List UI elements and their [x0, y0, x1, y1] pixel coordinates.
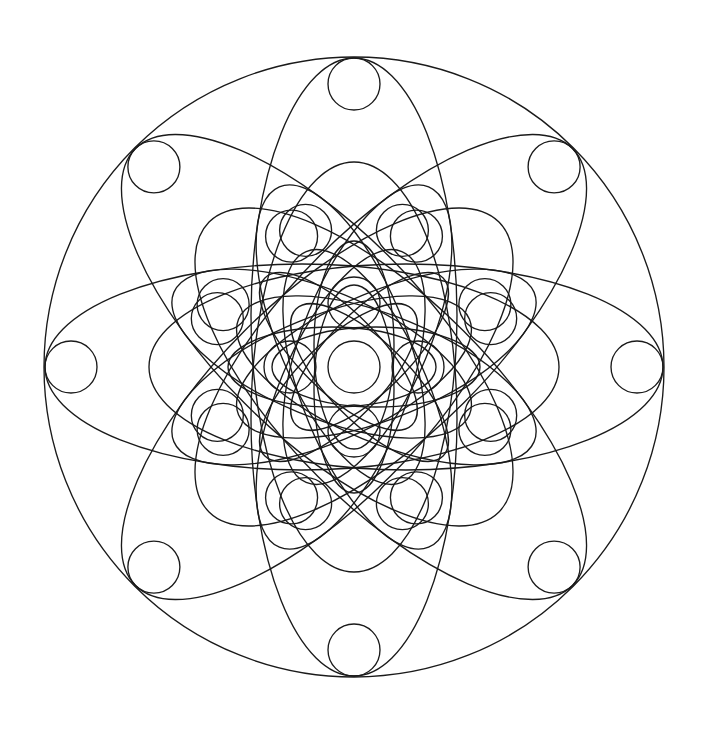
mandala-drawing: [0, 0, 701, 734]
